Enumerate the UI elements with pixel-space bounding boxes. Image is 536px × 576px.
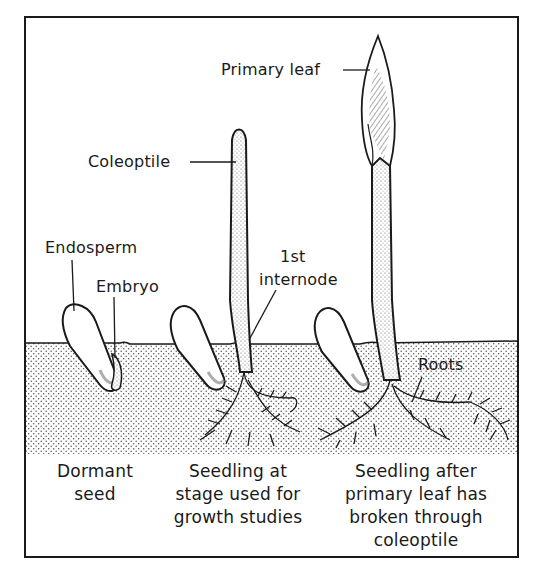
label-coleoptile: Coleoptile (88, 152, 170, 171)
label-first-internode-line1: 1st (280, 247, 305, 266)
label-embryo: Embryo (96, 277, 159, 296)
caption-dormant-seed: Dormant seed (40, 460, 150, 506)
label-endosperm: Endosperm (45, 238, 137, 257)
seedling-growth-diagram: Primary leaf Coleoptile Endosperm Embryo… (0, 0, 536, 576)
label-first-internode-line2: internode (259, 270, 338, 289)
caption-seedling-stage: Seedling at stage used for growth studie… (163, 460, 313, 529)
label-roots: Roots (418, 355, 464, 374)
label-primary-leaf: Primary leaf (221, 60, 320, 79)
caption-seedling-after: Seedling after primary leaf has broken t… (326, 460, 506, 552)
